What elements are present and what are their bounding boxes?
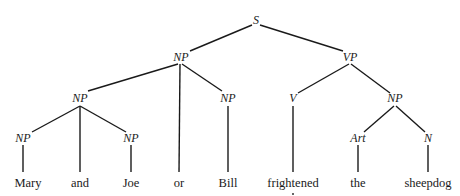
- tree-edge: [32, 106, 80, 132]
- node-np-bill: NP: [219, 91, 236, 105]
- tree-edge: [298, 64, 349, 93]
- word-bill: Bill: [219, 176, 238, 190]
- node-n: N: [423, 131, 433, 145]
- tree-edge: [190, 25, 252, 51]
- tree-edge: [80, 106, 126, 132]
- node-v: V: [289, 91, 298, 105]
- node-np-mary: NP: [14, 131, 31, 145]
- word-and: and: [71, 176, 90, 190]
- tree-edge: [182, 64, 222, 91]
- word-or: or: [174, 176, 185, 190]
- node-art: Art: [349, 131, 366, 145]
- word-the: the: [350, 176, 366, 190]
- tree-edge: [351, 64, 390, 93]
- syntax-tree-diagram: S NP VP NP NP V NP NP NP Art N Mary and …: [0, 0, 460, 196]
- node-np-joe: NP: [122, 131, 139, 145]
- tree-edge: [396, 106, 425, 132]
- word-joe: Joe: [123, 176, 140, 190]
- word-sheepdog: sheepdog: [404, 176, 452, 190]
- word-mary: Mary: [14, 176, 42, 190]
- footnote-dot: [292, 193, 294, 195]
- node-s: S: [253, 13, 259, 27]
- tree-edge: [260, 25, 343, 51]
- node-np-subject: NP: [172, 50, 189, 64]
- word-frightened: frightened: [267, 176, 319, 190]
- node-vp: VP: [343, 50, 358, 64]
- tree-edge: [179, 64, 180, 172]
- node-np-coordinated: NP: [71, 91, 88, 105]
- node-np-object: NP: [386, 91, 403, 105]
- tree-edge: [364, 106, 394, 132]
- tree-edge: [88, 64, 178, 91]
